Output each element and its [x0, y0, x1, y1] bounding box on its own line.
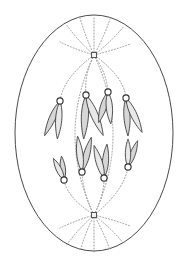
chr-top-1-centromere: [57, 98, 63, 104]
chr-bot-3-centromere: [101, 175, 107, 181]
spindle-pole-top: [92, 53, 97, 58]
chr-bot-4-centromere: [125, 164, 131, 170]
cell-division-diagram: [0, 0, 188, 266]
chr-top-3-centromere: [105, 89, 111, 95]
diagram-canvas: Cell division anaphase diagram Anaphase: [0, 0, 188, 266]
spindle-pole-bottom: [92, 213, 97, 218]
chr-top-4-centromere: [123, 95, 129, 101]
chr-top-2-centromere: [83, 92, 89, 98]
chr-bot-2-centromere: [79, 169, 85, 175]
chr-bot-1-centromere: [61, 177, 67, 183]
